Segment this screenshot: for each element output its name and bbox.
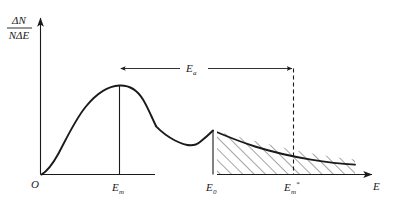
y-axis-numerator: ΔN bbox=[11, 14, 26, 26]
tick-label-em-subscript: m bbox=[119, 188, 124, 196]
tick-label-em-star-subscript: m bbox=[291, 188, 296, 196]
origin-label: O bbox=[31, 178, 39, 190]
ea-label-base: E bbox=[185, 62, 193, 74]
y-axis-denominator: NΔE bbox=[8, 29, 30, 41]
tick-label-em-base: E bbox=[111, 181, 119, 193]
tick-label-em-star-base: E bbox=[283, 181, 291, 193]
tick-label-e0-subscript: 0 bbox=[213, 188, 217, 196]
y-axis-label: ΔN NΔE bbox=[7, 14, 32, 41]
ea-label: E a bbox=[185, 62, 197, 77]
ea-label-subscript: a bbox=[193, 69, 197, 77]
x-axis-label: E bbox=[372, 180, 380, 192]
tick-label-e0-base: E bbox=[205, 181, 213, 193]
tick-label-em-star-superscript: * bbox=[296, 180, 300, 188]
spectrum-figure: ΔN NΔE O E E m E 0 E m * E a bbox=[0, 0, 394, 203]
tick-label-em: E m bbox=[111, 181, 124, 196]
hatch-fill bbox=[210, 125, 360, 177]
spectrum-plot-svg: ΔN NΔE O E E m E 0 E m * E a bbox=[0, 0, 394, 203]
tick-label-e0: E 0 bbox=[205, 181, 217, 196]
curve-correction-group bbox=[155, 126, 217, 176]
hatched-tail-region bbox=[210, 125, 360, 177]
tick-label-em-star: E m * bbox=[283, 180, 300, 196]
